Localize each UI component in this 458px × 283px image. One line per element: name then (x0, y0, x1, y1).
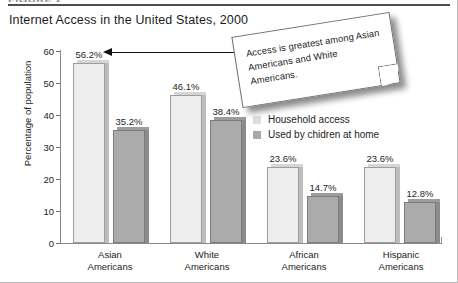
x-category-asian-line1: Asian (88, 249, 133, 261)
bar-top (214, 117, 246, 120)
bar-side (242, 120, 246, 243)
callout-arrow-head-icon (103, 48, 112, 56)
bar-asian-children (113, 130, 145, 243)
bar-side (202, 95, 206, 243)
bar-side (145, 130, 149, 243)
bar-face (170, 95, 202, 243)
bar-side (299, 167, 303, 243)
legend-swatch-household (253, 116, 261, 124)
bar-african-household (267, 167, 299, 243)
bar-face (307, 196, 339, 243)
legend-swatch-children (253, 131, 261, 139)
bar-top (77, 60, 109, 63)
chart-legend: Household access Used by chidren at home (253, 114, 379, 144)
bar-top (368, 164, 400, 167)
legend-item-children: Used by chidren at home (253, 129, 379, 141)
bar-face (267, 167, 299, 243)
bar-label-hispanic-household: 23.6% (367, 153, 394, 164)
callout-note-fold-icon (378, 63, 401, 86)
bar-side (105, 63, 109, 243)
legend-label-children: Used by chidren at home (268, 129, 379, 141)
bar-top (117, 127, 149, 130)
bar-label-african-children: 14.7% (310, 182, 337, 193)
bar-label-asian-household: 56.2% (76, 49, 103, 60)
y-tick-10: 10 (34, 206, 54, 217)
y-tick-60: 60 (34, 46, 54, 57)
y-tick-0: 0 (34, 238, 54, 249)
bar-face (404, 202, 436, 243)
callout-arrow-line (110, 52, 240, 53)
bar-label-white-children: 38.4% (213, 106, 240, 117)
x-category-white: White Americans (185, 249, 230, 273)
x-axis-end-tick (441, 237, 442, 244)
x-category-hispanic-line2: Americans (379, 261, 424, 273)
legend-item-household: Household access (253, 114, 379, 126)
x-category-african-line1: African (282, 249, 327, 261)
bar-white-household (170, 95, 202, 243)
bar-top (408, 199, 440, 202)
bar-top (311, 193, 343, 196)
bar-side (396, 167, 400, 243)
x-category-white-line1: White (185, 249, 230, 261)
y-axis-label: Percentage of population (22, 24, 33, 204)
y-axis-ticks: 0 10 20 30 40 50 60 (32, 0, 54, 283)
x-category-african: African Americans (282, 249, 327, 273)
bar-hispanic-children (404, 202, 436, 243)
bar-face (113, 130, 145, 243)
bar-side (339, 196, 343, 243)
x-category-african-line2: Americans (282, 261, 327, 273)
bar-side (436, 202, 440, 243)
bar-white-children (210, 120, 242, 243)
legend-label-household: Household access (268, 114, 350, 126)
y-axis-line (60, 50, 61, 244)
bar-label-african-household: 23.6% (270, 153, 297, 164)
x-category-asian-line2: Americans (88, 261, 133, 273)
y-tick-30: 30 (34, 142, 54, 153)
y-tick-20: 20 (34, 174, 54, 185)
bar-top (174, 92, 206, 95)
bar-label-hispanic-children: 12.8% (407, 188, 434, 199)
x-category-hispanic: Hispanic Americans (379, 249, 424, 273)
y-tick-50: 50 (34, 78, 54, 89)
bar-face (73, 63, 105, 243)
y-tick-40: 40 (34, 110, 54, 121)
callout-note-text: Access is greatest among Asian Americans… (245, 26, 386, 89)
bar-hispanic-household (364, 167, 396, 243)
bar-top (271, 164, 303, 167)
bar-face (210, 120, 242, 243)
x-category-white-line2: Americans (185, 261, 230, 273)
bar-face (364, 167, 396, 243)
bar-african-children (307, 196, 339, 243)
bar-asian-household (73, 63, 105, 243)
x-category-asian: Asian Americans (88, 249, 133, 273)
x-category-hispanic-line1: Hispanic (379, 249, 424, 261)
bar-label-white-household: 46.1% (173, 81, 200, 92)
bar-label-asian-children: 35.2% (116, 116, 143, 127)
figure-container: FIGURE 2 Internet Access in the United S… (0, 0, 458, 283)
x-axis-line (60, 243, 442, 244)
